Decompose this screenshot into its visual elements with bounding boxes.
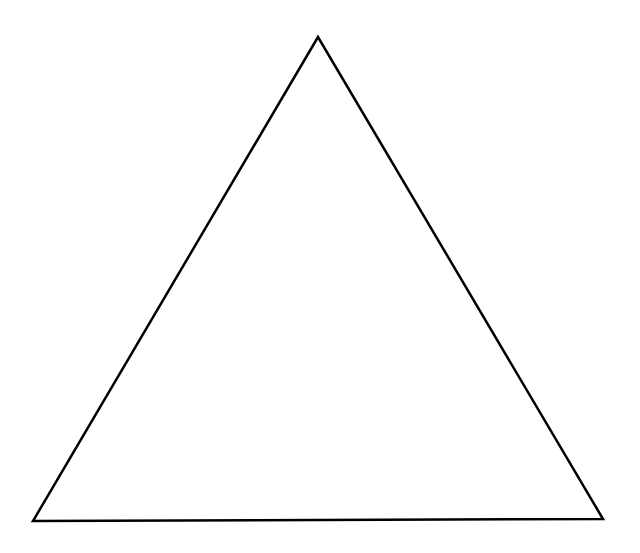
- triangle-shape: [33, 37, 603, 521]
- diagram-canvas: [0, 0, 640, 553]
- triangle-figure: [0, 0, 640, 553]
